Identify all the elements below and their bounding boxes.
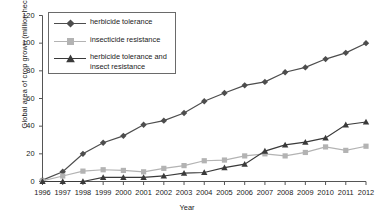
data-point-marker [323,144,328,149]
y-tick-label: 60 [13,94,35,103]
legend-label-1: insecticide resistance [87,35,160,45]
data-point-marker [202,158,207,163]
data-point-marker [303,150,308,155]
series-2 [40,144,369,184]
data-point-marker [241,82,247,88]
y-tick-label: 20 [13,149,35,158]
data-point-marker [363,40,369,46]
x-axis-title: Year [0,203,374,212]
y-tick-label: 120 [13,11,35,20]
legend-marker-diamond-icon [53,18,87,28]
data-point-marker [283,153,288,158]
y-tick-label: 40 [13,121,35,130]
data-point-marker [221,90,227,96]
chart-legend: herbicide tolerance insecticide resistan… [48,12,176,74]
data-point-marker [242,153,247,158]
legend-marker-square-icon [53,36,87,46]
x-tick-label: 2012 [353,188,379,197]
data-point-marker [101,167,106,172]
data-point-marker [282,69,288,75]
data-point-marker [140,122,146,128]
data-point-marker [60,173,65,178]
data-point-marker [181,163,186,168]
data-point-marker [343,50,349,56]
data-point-marker [121,168,126,173]
legend-item-herbicide-tolerance: herbicide tolerance [53,17,152,28]
legend-item-herbicide-and-insect: herbicide tolerance and insect resistanc… [53,52,167,71]
data-point-marker [80,169,85,174]
data-point-marker [363,144,368,149]
y-tick-label: 100 [13,38,35,47]
data-point-marker [241,161,247,167]
data-point-marker [161,166,166,171]
data-point-marker [322,56,328,62]
legend-marker-triangle-icon [53,53,87,63]
data-point-marker [141,169,146,174]
legend-label-0: herbicide tolerance [87,17,152,27]
data-point-marker [161,117,167,123]
data-point-marker [181,110,187,116]
data-point-marker [100,140,106,146]
data-point-marker [262,79,268,85]
data-point-marker [120,133,126,139]
legend-label-2: herbicide tolerance and insect resistanc… [87,52,167,71]
data-point-marker [302,64,308,70]
y-tick-label: 80 [13,66,35,75]
data-point-marker [322,135,328,141]
data-point-marker [363,119,369,125]
data-point-marker [201,98,207,104]
data-point-marker [343,148,348,153]
series-3 [39,119,369,184]
y-tick-label: 0 [13,177,35,186]
data-point-marker [222,157,227,162]
legend-item-insecticide-resistance: insecticide resistance [53,35,160,46]
